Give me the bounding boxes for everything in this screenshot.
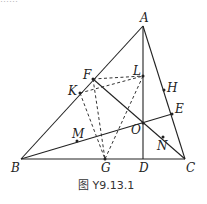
label-K: K bbox=[67, 84, 78, 98]
label-C: C bbox=[186, 161, 195, 175]
dot-O bbox=[142, 122, 145, 125]
label-H: H bbox=[166, 81, 178, 95]
label-N: N bbox=[156, 139, 168, 153]
dot-L bbox=[142, 75, 145, 78]
dot-H bbox=[163, 89, 166, 92]
label-M: M bbox=[71, 127, 85, 141]
segment-FG bbox=[93, 79, 105, 159]
label-L: L bbox=[132, 64, 141, 78]
point-labels: A B C D E F G H K L M N O bbox=[10, 11, 195, 175]
label-F: F bbox=[82, 68, 92, 82]
figure-caption: 图 Y9.13.1 bbox=[78, 179, 134, 192]
dot-E bbox=[171, 113, 174, 116]
label-G: G bbox=[101, 161, 111, 175]
label-A: A bbox=[139, 11, 149, 25]
label-O: O bbox=[131, 123, 141, 137]
segment-KG bbox=[80, 93, 105, 159]
label-B: B bbox=[10, 161, 20, 175]
dashed-lines bbox=[80, 76, 143, 159]
dot-K bbox=[79, 92, 82, 95]
geometry-figure: A B C D E F G H K L M N O 图 Y9.13.1 bbox=[0, 0, 207, 204]
label-D: D bbox=[138, 161, 149, 175]
dot-F bbox=[92, 78, 95, 81]
label-E: E bbox=[174, 102, 184, 116]
